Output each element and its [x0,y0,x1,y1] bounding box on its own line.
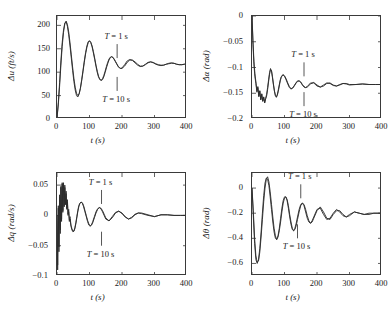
panel-delta-u: Δu (ft/s) 050100150200 0100200300400 t (… [0,0,195,157]
x-tick-label: 400 [375,121,388,131]
x-tick-label: 200 [310,278,323,288]
series-line [252,177,381,262]
series-line [57,183,186,270]
y-axis-label-delta-q: Δq (rad/s) [4,171,18,274]
x-tick-label: 0 [54,278,58,288]
panel-delta-alpha: Δα (rad) 0−0.05−0.1−0.15−0.2 01002003004… [195,0,390,157]
series-line [252,178,381,263]
annotation-t-1s: T = 1 s [288,171,311,181]
x-tick-label: 300 [147,278,160,288]
plot-area-delta-alpha [251,15,381,118]
figure-four-panel-response-plots: Δu (ft/s) 050100150200 0100200300400 t (… [0,0,390,314]
y-tick-label: 0.05 [33,179,48,189]
y-tick-label: −0.1 [228,62,243,72]
x-axis-label-delta-theta: t (s) [195,292,390,302]
chart-svg-delta-q [57,173,186,275]
x-tick-label: 400 [180,121,193,131]
y-tick-label: 0 [46,113,50,123]
panel-delta-q: Δq (rad/s) 0.050−0.05−0.1 0100200300400 … [0,157,195,314]
x-tick-label: 0 [249,278,253,288]
y-tick-label: 0 [44,209,48,219]
y-axis-label-delta-u: Δu (ft/s) [4,14,18,117]
x-tick-label: 200 [310,121,323,131]
x-axis-label-delta-alpha: t (s) [195,135,390,145]
y-tick-label: 100 [37,66,50,76]
y-tick-label: −0.2 [228,113,243,123]
x-axis-label-delta-u: t (s) [0,135,195,145]
x-tick-label: 200 [115,121,128,131]
y-tick-label: 0 [239,182,243,192]
y-tick-label: −0.05 [223,36,243,46]
panel-delta-theta: Δθ (rad) 0−0.2−0.4−0.6 0100200300400 t (… [195,157,390,314]
annotation-t-1s: T = 1 s [104,31,127,41]
y-axis-label-delta-alpha: Δα (rad) [199,14,213,117]
y-tick-label: 50 [42,90,51,100]
x-tick-label: 0 [54,121,58,131]
y-tick-label: −0.15 [223,87,243,97]
y-tick-label: −0.1 [33,270,48,280]
x-tick-label: 300 [147,121,160,131]
series-line [252,16,381,103]
y-tick-label: −0.4 [228,232,243,242]
y-axis-label-delta-theta: Δθ (rad) [199,171,213,274]
x-tick-label: 100 [277,121,290,131]
x-tick-label: 100 [277,278,290,288]
series-line [252,16,381,103]
x-tick-label: 0 [249,121,253,131]
x-tick-label: 200 [115,278,128,288]
annotation-t-1s: T = 1 s [89,177,112,187]
y-tick-label: 0 [239,10,243,20]
x-tick-label: 100 [82,121,95,131]
x-tick-label: 300 [342,121,355,131]
annotation-t-10s: T = 10 s [289,109,317,119]
annotation-t-10s: T = 10 s [87,249,115,259]
annotation-t-10s: T = 10 s [283,241,311,251]
chart-svg-delta-theta [252,173,381,275]
y-tick-label: −0.6 [228,257,243,267]
plot-area-delta-q [56,172,186,275]
y-tick-label: −0.05 [28,240,48,250]
series-line [57,183,186,265]
annotation-t-10s: T = 10 s [102,94,130,104]
x-tick-label: 400 [375,278,388,288]
x-tick-label: 100 [82,278,95,288]
y-tick-label: 150 [37,43,50,53]
annotation-t-1s: T = 1 s [291,49,314,59]
plot-area-delta-theta [251,172,381,275]
x-axis-label-delta-q: t (s) [0,292,195,302]
y-tick-label: −0.2 [228,207,243,217]
y-tick-label: 200 [37,19,50,29]
x-tick-label: 400 [180,278,193,288]
chart-svg-delta-alpha [252,16,381,118]
x-tick-label: 300 [342,278,355,288]
